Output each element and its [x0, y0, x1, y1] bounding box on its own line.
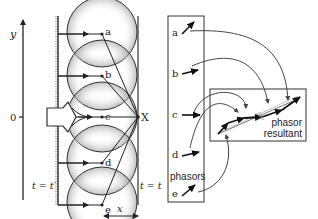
phasor-label-b: b — [172, 68, 178, 79]
point-label-c: c — [105, 111, 111, 122]
origin-label: 0 — [10, 112, 16, 123]
phasor-d — [182, 152, 199, 156]
point-label-a: a — [105, 26, 111, 37]
phasor-label-c: c — [172, 109, 178, 120]
point-label-b: b — [105, 69, 111, 80]
phasor-b — [182, 70, 198, 74]
phasor-label-a: a — [172, 27, 178, 38]
y-axis-label: y — [9, 28, 17, 41]
resultant-label-line1: phasor — [271, 117, 302, 128]
huygens-phasor-diagram: y 0 — [0, 0, 318, 219]
phasor-label-e: e — [172, 188, 178, 199]
phasors-box-label: phasors — [170, 171, 206, 182]
resultant-label-line2: resultant — [264, 128, 303, 139]
phasor-e — [182, 185, 195, 196]
distance-label: x — [117, 203, 123, 214]
phasor-arrows — [182, 22, 200, 196]
phasor-a — [182, 22, 194, 34]
point-x-label: X — [141, 111, 149, 124]
time-label-left: t = t′ — [32, 180, 57, 191]
time-label-right: t = t — [140, 180, 162, 191]
phasor-label-d: d — [172, 149, 179, 160]
point-label-d: d — [105, 157, 112, 168]
point-label-e: e — [105, 204, 111, 215]
y-axis: y 0 — [9, 20, 23, 200]
